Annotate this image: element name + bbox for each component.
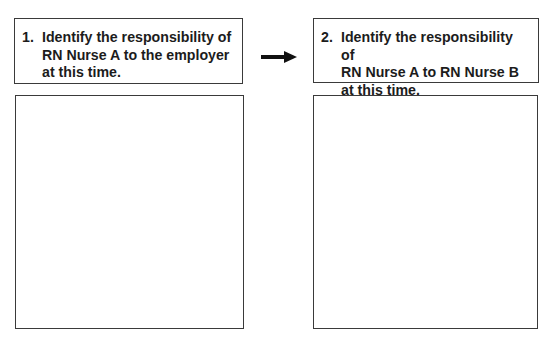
right-arrow-icon bbox=[260, 50, 298, 64]
prompt-box-2: 2. Identify the responsibility of RN Nur… bbox=[313, 18, 539, 83]
prompt-box-1: 1. Identify the responsibility of RN Nur… bbox=[14, 18, 243, 84]
prompt-number: 2. bbox=[321, 29, 341, 47]
prompt-text: Identify the responsibility of RN Nurse … bbox=[42, 29, 231, 82]
prompt-text: Identify the responsibility of RN Nurse … bbox=[341, 29, 530, 99]
answer-box-2[interactable] bbox=[313, 95, 538, 329]
answer-box-1[interactable] bbox=[15, 95, 244, 329]
prompt-number: 1. bbox=[22, 29, 42, 47]
